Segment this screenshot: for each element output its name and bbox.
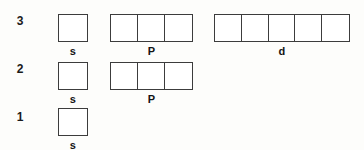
orbital-box	[59, 63, 86, 89]
orbital-group: d	[214, 14, 350, 57]
orbital-box	[59, 15, 86, 41]
orbital-box	[59, 109, 86, 135]
orbital-box-set	[214, 14, 350, 42]
orbital-box	[322, 15, 349, 41]
orbital-label: P	[110, 93, 193, 105]
orbital-label: s	[58, 45, 88, 57]
orbital-box	[242, 15, 269, 41]
orbital-label: s	[58, 139, 88, 150]
orbital-group: s	[58, 62, 88, 105]
orbital-label: d	[214, 45, 350, 57]
orbital-box-set	[58, 108, 88, 136]
orbital-group: P	[110, 14, 193, 57]
orbital-box-set	[58, 14, 88, 42]
orbital-box-set	[58, 62, 88, 90]
orbital-group: s	[58, 14, 88, 57]
orbital-label: s	[58, 93, 88, 105]
orbital-box-set	[110, 14, 193, 42]
orbital-group: P	[110, 62, 193, 105]
orbital-box	[138, 63, 165, 89]
shell-number-label: 3	[12, 14, 28, 28]
orbital-box	[111, 15, 138, 41]
orbital-box	[165, 15, 192, 41]
orbital-box	[165, 63, 192, 89]
shell-number-label: 1	[12, 110, 28, 124]
shell-number-label: 2	[12, 62, 28, 76]
orbital-group: s	[58, 108, 88, 150]
orbital-label: P	[110, 45, 193, 57]
orbital-box	[138, 15, 165, 41]
orbital-box	[111, 63, 138, 89]
orbital-box	[295, 15, 322, 41]
orbital-diagram: 3sPd2sP1s	[0, 0, 364, 150]
orbital-box-set	[110, 62, 193, 90]
orbital-box	[269, 15, 296, 41]
orbital-box	[215, 15, 242, 41]
